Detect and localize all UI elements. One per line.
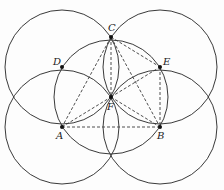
label-c: C [108, 22, 116, 33]
geometry-diagram: CDEFAB [0, 0, 224, 190]
label-e: E [162, 56, 171, 67]
point-a [60, 125, 64, 129]
segment-ca [62, 37, 111, 127]
point-e [158, 65, 162, 69]
point-b [158, 125, 162, 129]
segment-cb [111, 37, 160, 127]
point-c [109, 35, 113, 39]
segments-group [62, 37, 160, 127]
label-d: D [52, 56, 61, 67]
point-f [109, 95, 113, 99]
label-a: A [55, 130, 63, 141]
label-f: F [106, 101, 115, 112]
label-b: B [156, 130, 164, 141]
